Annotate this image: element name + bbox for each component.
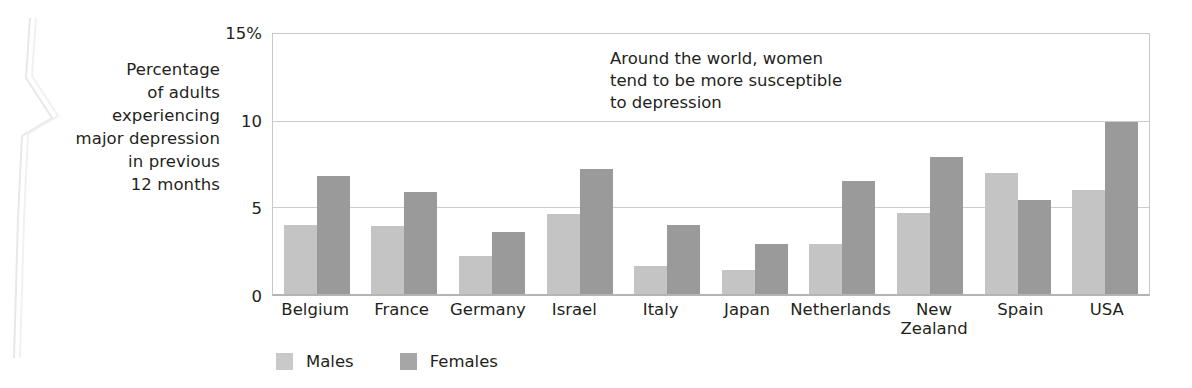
bar-females-spain — [1018, 200, 1051, 294]
x-tick-label: France — [358, 300, 444, 338]
legend-item-females: Females — [400, 352, 498, 371]
bar-females-italy — [667, 225, 700, 294]
y-tick-label-0: 0 — [252, 287, 263, 306]
bar-females-japan — [755, 244, 788, 294]
bar-females-netherlands — [842, 181, 875, 294]
bar-females-france — [404, 192, 437, 294]
x-tick-label: Spain — [977, 300, 1063, 338]
bar-females-new-zealand — [930, 157, 963, 294]
bar-males-new-zealand — [897, 213, 930, 294]
bar-females-belgium — [317, 176, 350, 294]
bar-group — [1061, 34, 1149, 294]
legend-label-females: Females — [430, 352, 498, 371]
bar-males-usa — [1072, 190, 1105, 294]
bar-males-belgium — [284, 225, 317, 294]
chart-legend: Males Females — [276, 352, 498, 371]
x-axis-tick-labels: BelgiumFranceGermanyIsraelItalyJapanNeth… — [272, 300, 1150, 338]
depression-bar-chart-figure: Percentage of adults experiencing major … — [0, 0, 1192, 388]
x-tick-label: Germany — [445, 300, 531, 338]
bar-group — [886, 34, 974, 294]
bar-females-usa — [1105, 122, 1138, 294]
x-tick-label: Japan — [704, 300, 790, 338]
bar-males-france — [371, 226, 404, 294]
bar-males-israel — [547, 214, 580, 294]
y-tick-label-15: 15% — [225, 24, 262, 43]
legend-swatch-males-icon — [276, 353, 293, 370]
bar-group — [448, 34, 536, 294]
chart-annotation: Around the world, women tend to be more … — [610, 48, 842, 114]
y-tick-label-5: 5 — [252, 199, 263, 218]
bar-males-spain — [985, 173, 1018, 294]
bar-group — [361, 34, 449, 294]
bar-males-japan — [722, 270, 755, 294]
bar-males-germany — [459, 256, 492, 294]
y-tick-label-10: 10 — [241, 111, 262, 130]
bar-females-israel — [580, 169, 613, 294]
x-tick-label: Belgium — [272, 300, 358, 338]
legend-label-males: Males — [306, 352, 354, 371]
y-axis-tick-labels: 15% 10 5 0 — [190, 33, 262, 296]
x-tick-label: Italy — [618, 300, 704, 338]
x-tick-label: NewZealand — [891, 300, 977, 338]
bar-females-germany — [492, 232, 525, 294]
x-tick-label: USA — [1064, 300, 1150, 338]
legend-item-males: Males — [276, 352, 354, 371]
x-tick-label: Israel — [531, 300, 617, 338]
bar-group — [974, 34, 1062, 294]
bar-group — [273, 34, 361, 294]
bar-males-italy — [634, 266, 667, 294]
bar-males-netherlands — [809, 244, 842, 294]
legend-swatch-females-icon — [400, 353, 417, 370]
x-tick-label: Netherlands — [790, 300, 891, 338]
